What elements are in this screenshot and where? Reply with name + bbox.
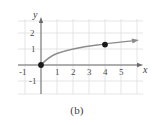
y-axis [39, 17, 43, 94]
x-tick-label-3: 3 [87, 68, 92, 77]
y-tick-label-2: 2 [30, 29, 35, 38]
x-tick-label-2: 2 [71, 68, 76, 77]
x-tick-label-5: 5 [119, 68, 124, 77]
y-axis-label: y [33, 10, 37, 20]
x-tick-label-neg1: -1 [19, 68, 27, 77]
sqrt-curve [41, 38, 139, 65]
x-axis [18, 63, 143, 67]
grid-lines-horizontal [18, 21, 143, 94]
x-tick-label-4: 4 [103, 68, 108, 77]
point-origin [38, 62, 44, 68]
grid-lines-vertical [25, 19, 137, 94]
graph-figure: 2 1 -1 -1 1 2 3 4 5 y x (b) [0, 0, 154, 125]
y-tick-label-neg1: -1 [29, 77, 37, 86]
figure-caption: (b) [0, 104, 154, 116]
y-tick-label-1: 1 [31, 45, 36, 54]
point-4-1 [102, 42, 108, 48]
x-axis-label: x [143, 65, 147, 75]
x-tick-label-1: 1 [55, 68, 60, 77]
